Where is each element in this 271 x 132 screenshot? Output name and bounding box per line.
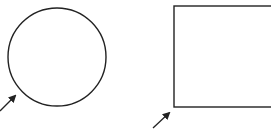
square-arrow-icon	[153, 113, 169, 128]
diagram-canvas	[0, 0, 271, 132]
circle-arrow-icon	[0, 96, 15, 111]
circle-shape	[8, 8, 106, 106]
square-shape	[174, 6, 271, 107]
